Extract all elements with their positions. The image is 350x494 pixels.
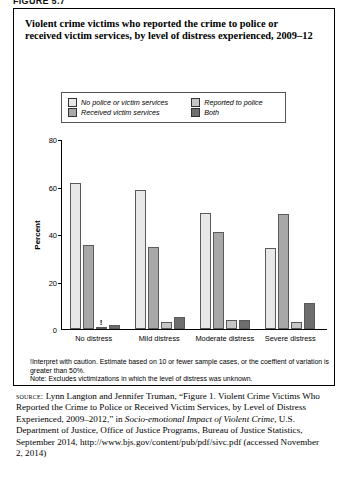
legend-row: Received victim services Both <box>68 108 280 117</box>
legend-swatch-icon <box>68 98 77 107</box>
legend-swatch-icon <box>68 108 77 117</box>
legend-item-reported-to-police: Reported to police <box>191 98 280 107</box>
legend-row: No police or victim services Reported to… <box>68 98 280 107</box>
y-axis-tick-mark <box>58 283 61 284</box>
bar <box>109 325 120 329</box>
legend-swatch-icon <box>191 98 200 107</box>
x-axis-tick-label: No distress <box>61 334 127 343</box>
bar <box>239 320 250 330</box>
bar <box>161 322 172 329</box>
legend-label: Received victim services <box>81 108 160 117</box>
bar-groups: ! <box>62 140 323 329</box>
legend-item-both: Both <box>191 108 280 117</box>
x-axis-line <box>61 329 327 330</box>
exclusion-note: Note: Excludes victimizations in which t… <box>30 375 348 384</box>
y-axis-tick-mark <box>58 140 61 141</box>
x-axis-labels: No distressMild distressModerate distres… <box>61 334 323 343</box>
chart-title: Violent crime victims who reported the c… <box>25 18 315 43</box>
bar <box>226 320 237 330</box>
bar <box>135 190 146 329</box>
y-axis-label: Percent <box>33 220 42 249</box>
source-kicker: source: <box>16 392 43 401</box>
y-axis-tick-label: 0 <box>53 326 61 335</box>
bar <box>148 247 159 329</box>
plot-area: Percent 020406080 ! <box>61 140 323 330</box>
bar <box>70 183 81 329</box>
y-axis-tick-mark <box>58 235 61 236</box>
bar <box>291 322 302 329</box>
figure-frame: Violent crime victims who reported the c… <box>13 8 335 386</box>
chart-notes: !Interpret with caution. Estimate based … <box>30 358 348 384</box>
y-axis-tick-mark <box>58 188 61 189</box>
legend-item-received-victim-services: Received victim services <box>68 108 191 117</box>
bar <box>200 213 211 329</box>
legend-label: Reported to police <box>204 98 262 107</box>
bar <box>174 317 185 329</box>
legend-label: No police or victim services <box>81 98 168 107</box>
legend-label: Both <box>204 108 219 117</box>
figure-label: FIGURE 5.7 <box>13 0 65 6</box>
x-axis-tick-label: Mild distress <box>127 334 193 343</box>
bar <box>265 248 276 329</box>
bar-group <box>127 140 192 329</box>
bar <box>304 303 315 329</box>
legend-item-no-police-or-victim-services: No police or victim services <box>68 98 191 107</box>
chart-legend: No police or victim services Reported to… <box>61 92 286 123</box>
bar <box>278 214 289 329</box>
caution-marker: ! <box>100 319 103 327</box>
source-publication-title: Socio-emotional Impact of Violent Crime <box>125 414 274 424</box>
bar <box>213 232 224 329</box>
bar-group <box>258 140 323 329</box>
bar <box>83 245 94 329</box>
source-block: source: Lynn Langton and Jennifer Truman… <box>16 391 326 459</box>
bar-group: ! <box>62 140 127 329</box>
x-axis-tick-label: Severe distress <box>258 334 324 343</box>
legend-swatch-icon <box>191 108 200 117</box>
bar-group <box>193 140 258 329</box>
bar: ! <box>96 327 107 329</box>
caution-note: !Interpret with caution. Estimate based … <box>30 358 348 375</box>
x-axis-tick-label: Moderate distress <box>192 334 258 343</box>
